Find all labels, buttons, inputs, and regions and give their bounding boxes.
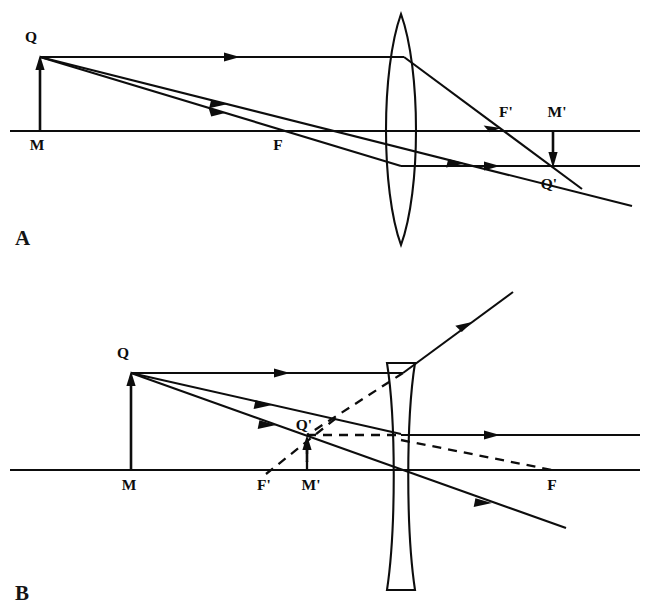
label-image-top-b: Q' bbox=[296, 416, 312, 433]
ray-arrowhead-b3 bbox=[254, 400, 272, 409]
panel-a: Q M F F' M' Q' A bbox=[10, 14, 640, 250]
figure-root: Q M F F' M' Q' A bbox=[0, 0, 648, 614]
label-image-focus-a: F' bbox=[499, 103, 513, 120]
ray-arrowhead-b6 bbox=[474, 498, 492, 507]
construction-to-focus-b bbox=[401, 440, 552, 470]
ray-arrowhead-b4 bbox=[484, 431, 500, 440]
label-image-top-a: Q' bbox=[541, 175, 557, 192]
ray-diagram-svg: Q M F F' M' Q' A bbox=[0, 0, 648, 614]
ray-arrowhead-b2 bbox=[455, 322, 472, 332]
label-object-top-a: Q bbox=[25, 28, 37, 45]
label-focus-a: F bbox=[273, 136, 282, 153]
ray-arrowhead-a1 bbox=[224, 53, 240, 62]
panel-label-b: B bbox=[15, 581, 29, 605]
label-object-base-b: M bbox=[122, 476, 137, 493]
construction-parallel-backward-b bbox=[307, 373, 403, 435]
label-image-base-a: M' bbox=[548, 103, 567, 120]
panel-b: Q M F' M' Q' F B bbox=[10, 292, 640, 605]
label-image-focus-b: F' bbox=[257, 476, 271, 493]
ray-through-center-b bbox=[131, 373, 566, 528]
label-focus-b: F bbox=[547, 476, 556, 493]
label-object-top-b: Q bbox=[117, 344, 129, 361]
ray-parallel-refracted-a bbox=[404, 57, 582, 189]
converging-lens-a bbox=[386, 14, 416, 245]
ray-arrowhead-b1 bbox=[274, 369, 290, 378]
label-object-base-a: M bbox=[30, 136, 45, 153]
label-image-base-b: M' bbox=[302, 476, 321, 493]
diverging-lens-b bbox=[387, 363, 415, 590]
ray-parallel-refracted-b bbox=[403, 292, 513, 373]
ray-through-focus-incident-a bbox=[40, 57, 401, 166]
panel-label-a: A bbox=[15, 226, 31, 250]
